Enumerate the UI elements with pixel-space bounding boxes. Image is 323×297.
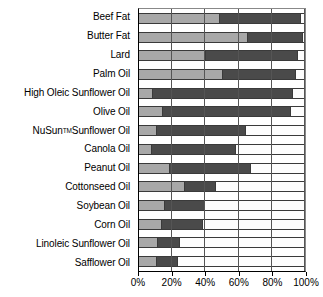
saturated-segment xyxy=(139,164,169,173)
monounsaturated-segment xyxy=(157,238,179,247)
category-label: Lard xyxy=(0,46,134,65)
monounsaturated-segment xyxy=(205,51,296,60)
x-tick-label: 0% xyxy=(131,278,145,288)
polyunsaturated-segment xyxy=(290,107,305,116)
x-tick-label: 40% xyxy=(195,278,215,288)
category-label: Safflower Oil xyxy=(0,253,134,272)
category-label: Butter Fat xyxy=(0,27,134,46)
saturated-segment xyxy=(139,33,247,42)
bar-row xyxy=(139,121,305,140)
saturated-segment xyxy=(139,220,161,229)
bar-rows xyxy=(139,9,305,271)
monounsaturated-segment xyxy=(219,14,300,23)
bar-row xyxy=(139,159,305,178)
bar-row xyxy=(139,215,305,234)
x-tick xyxy=(306,272,307,276)
polyunsaturated-segment xyxy=(297,51,305,60)
saturated-segment xyxy=(139,257,156,266)
monounsaturated-segment xyxy=(152,89,291,98)
x-tick xyxy=(272,272,273,276)
bar-row xyxy=(139,103,305,122)
saturated-segment xyxy=(139,70,222,79)
polyunsaturated-segment xyxy=(204,201,305,210)
bar-row xyxy=(139,196,305,215)
polyunsaturated-segment xyxy=(245,126,305,135)
polyunsaturated-segment xyxy=(295,70,305,79)
bar-row xyxy=(139,65,305,84)
stacked-bar xyxy=(139,106,305,117)
bar-row xyxy=(139,234,305,253)
category-label: Canola Oil xyxy=(0,140,134,159)
stacked-bar-chart: Beef FatButter FatLardPalm OilHigh Oleic… xyxy=(0,0,323,297)
stacked-bar xyxy=(139,125,305,136)
saturated-segment xyxy=(139,107,162,116)
polyunsaturated-segment xyxy=(179,238,305,247)
polyunsaturated-segment xyxy=(235,145,305,154)
monounsaturated-segment xyxy=(151,145,236,154)
monounsaturated-segment xyxy=(161,220,203,229)
polyunsaturated-segment xyxy=(302,33,305,42)
x-tick-label: 20% xyxy=(162,278,182,288)
saturated-segment xyxy=(139,14,219,23)
monounsaturated-segment xyxy=(247,33,302,42)
category-label: Beef Fat xyxy=(0,8,134,27)
stacked-bar xyxy=(139,88,305,99)
saturated-segment xyxy=(139,182,184,191)
polyunsaturated-segment xyxy=(177,257,305,266)
polyunsaturated-segment xyxy=(202,220,305,229)
x-tick-label: 100% xyxy=(293,278,319,288)
monounsaturated-segment xyxy=(169,164,250,173)
monounsaturated-segment xyxy=(162,107,290,116)
bar-row xyxy=(139,140,305,159)
category-label: NuSunTM Sunflower Oil xyxy=(0,121,134,140)
bar-row xyxy=(139,9,305,28)
stacked-bar xyxy=(139,163,305,174)
stacked-bar xyxy=(139,50,305,61)
stacked-bar xyxy=(139,144,305,155)
bar-row xyxy=(139,84,305,103)
category-label: Cottonseed Oil xyxy=(0,178,134,197)
monounsaturated-segment xyxy=(184,182,216,191)
category-label: High Oleic Sunflower Oil xyxy=(0,83,134,102)
bar-row xyxy=(139,252,305,271)
monounsaturated-segment xyxy=(156,257,178,266)
polyunsaturated-segment xyxy=(292,89,305,98)
x-axis: 0%20%40%60%80%100% xyxy=(138,272,306,294)
category-label: Linoleic Sunflower Oil xyxy=(0,234,134,253)
bar-row xyxy=(139,177,305,196)
saturated-segment xyxy=(139,89,152,98)
category-label: Olive Oil xyxy=(0,102,134,121)
category-label: Palm Oil xyxy=(0,65,134,84)
x-tick xyxy=(239,272,240,276)
category-label: Peanut Oil xyxy=(0,159,134,178)
polyunsaturated-segment xyxy=(250,164,305,173)
stacked-bar xyxy=(139,13,305,24)
saturated-segment xyxy=(139,238,157,247)
monounsaturated-segment xyxy=(156,126,246,135)
stacked-bar xyxy=(139,69,305,80)
x-tick-label: 60% xyxy=(229,278,249,288)
polyunsaturated-segment xyxy=(300,14,305,23)
category-label: Corn Oil xyxy=(0,215,134,234)
saturated-segment xyxy=(139,51,205,60)
category-axis-labels: Beef FatButter FatLardPalm OilHigh Oleic… xyxy=(0,8,134,272)
stacked-bar xyxy=(139,32,305,43)
category-label-text: NuSun xyxy=(33,126,63,136)
x-tick xyxy=(172,272,173,276)
polyunsaturated-segment xyxy=(215,182,305,191)
monounsaturated-segment xyxy=(164,201,204,210)
stacked-bar xyxy=(139,200,305,211)
stacked-bar xyxy=(139,237,305,248)
saturated-segment xyxy=(139,145,151,154)
stacked-bar xyxy=(139,219,305,230)
category-label-text-tail: Sunflower Oil xyxy=(72,126,130,136)
saturated-segment xyxy=(139,126,156,135)
stacked-bar xyxy=(139,256,305,267)
plot-area xyxy=(138,8,306,272)
monounsaturated-segment xyxy=(222,70,295,79)
x-tick xyxy=(205,272,206,276)
bar-row xyxy=(139,28,305,47)
category-label: Soybean Oil xyxy=(0,197,134,216)
saturated-segment xyxy=(139,201,164,210)
stacked-bar xyxy=(139,181,305,192)
